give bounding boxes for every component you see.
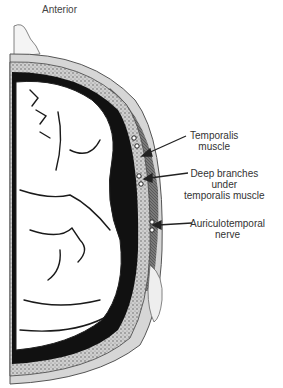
label-line: under [184, 179, 265, 190]
label-line: nerve [190, 229, 265, 240]
label-line: Auriculotemporal [190, 218, 265, 229]
label-auriculotemporal-nerve: Auriculotemporal nerve [190, 218, 265, 240]
label-temporalis-muscle: Temporalis muscle [190, 130, 238, 152]
label-line: Temporalis [190, 130, 238, 141]
label-line: Deep branches [184, 168, 265, 179]
label-line: temporalis muscle [184, 190, 265, 201]
brain-hemisphere [16, 81, 121, 350]
label-line: muscle [190, 141, 238, 152]
label-deep-branches: Deep branches under temporalis muscle [184, 168, 265, 201]
anterior-soft-tissue [14, 25, 40, 56]
